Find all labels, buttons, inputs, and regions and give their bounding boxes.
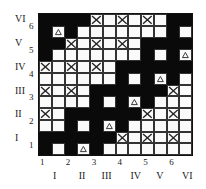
white-cell [179, 132, 192, 144]
cross-icon [117, 15, 128, 25]
black-cell [128, 61, 141, 73]
white-cell [179, 96, 192, 108]
black-cell [65, 108, 78, 120]
cross-cell [167, 108, 180, 120]
white-cell [52, 120, 65, 132]
cross-cell [167, 85, 180, 97]
white-cell [90, 26, 103, 38]
white-cell [103, 73, 116, 85]
black-cell [52, 132, 65, 144]
white-cell [154, 108, 167, 120]
white-cell [77, 120, 90, 132]
cross-icon [142, 15, 153, 25]
cross-icon [91, 39, 102, 49]
bottom-arabic-label: 6 [169, 158, 174, 167]
cross-icon [168, 109, 179, 119]
white-cell [128, 26, 141, 38]
white-cell [103, 49, 116, 61]
triangle-icon [53, 27, 64, 37]
cross-cell [116, 132, 129, 144]
bottom-arabic-label: 5 [143, 158, 148, 167]
cross-cell [141, 14, 154, 26]
black-cell [167, 14, 180, 26]
white-cell [52, 49, 65, 61]
white-cell [141, 26, 154, 38]
black-cell [65, 26, 78, 38]
black-cell [90, 120, 103, 132]
white-cell [65, 49, 78, 61]
white-cell [65, 96, 78, 108]
white-cell [154, 49, 167, 61]
left-roman-label: I [15, 133, 18, 142]
black-cell [39, 38, 52, 50]
black-cell [52, 14, 65, 26]
white-cell [116, 26, 129, 38]
white-cell [52, 73, 65, 85]
triangle-cell [103, 120, 116, 132]
white-cell [52, 96, 65, 108]
white-cell [77, 96, 90, 108]
white-cell [77, 61, 90, 73]
left-arabic-label: 6 [29, 22, 34, 31]
white-cell [179, 85, 192, 97]
black-cell [90, 143, 103, 155]
white-cell [128, 38, 141, 50]
cross-icon [168, 86, 179, 96]
black-cell [167, 73, 180, 85]
triangle-icon [104, 121, 115, 131]
white-cell [179, 143, 192, 155]
black-cell [116, 73, 129, 85]
black-cell [128, 85, 141, 97]
triangle-cell [154, 73, 167, 85]
black-cell [154, 38, 167, 50]
white-cell [128, 73, 141, 85]
black-cell [141, 85, 154, 97]
cross-icon [142, 133, 153, 143]
bottom-arabic-label: 4 [118, 158, 123, 167]
bottom-roman-label: I [53, 171, 56, 180]
cross-cell [141, 108, 154, 120]
black-cell [167, 26, 180, 38]
white-cell [128, 132, 141, 144]
black-cell [167, 49, 180, 61]
cross-cell [65, 85, 78, 97]
black-cell [116, 96, 129, 108]
black-cell [77, 132, 90, 144]
bottom-roman-label: IV [130, 171, 141, 180]
black-cell [179, 38, 192, 50]
cross-icon [91, 15, 102, 25]
white-cell [103, 96, 116, 108]
black-cell [39, 49, 52, 61]
black-cell [141, 61, 154, 73]
white-cell [103, 14, 116, 26]
black-cell [90, 96, 103, 108]
black-cell [90, 85, 103, 97]
white-cell [52, 85, 65, 97]
white-cell [179, 120, 192, 132]
cross-icon [117, 39, 128, 49]
cross-icon [91, 62, 102, 72]
bottom-roman-label: VI [182, 171, 193, 180]
black-cell [154, 61, 167, 73]
black-cell [116, 61, 129, 73]
black-cell [128, 108, 141, 120]
black-cell [65, 120, 78, 132]
left-roman-label: III [15, 86, 25, 95]
cross-cell [39, 85, 52, 97]
black-cell [116, 108, 129, 120]
white-cell [128, 49, 141, 61]
black-cell [39, 143, 52, 155]
white-cell [154, 143, 167, 155]
triangle-cell [52, 26, 65, 38]
black-cell [103, 85, 116, 97]
white-cell [77, 26, 90, 38]
triangle-icon [180, 50, 191, 60]
cross-icon [66, 39, 77, 49]
black-cell [116, 85, 129, 97]
white-cell [39, 120, 52, 132]
cross-icon [142, 109, 153, 119]
cross-cell [90, 61, 103, 73]
triangle-cell [77, 143, 90, 155]
white-cell [90, 73, 103, 85]
black-cell [103, 108, 116, 120]
